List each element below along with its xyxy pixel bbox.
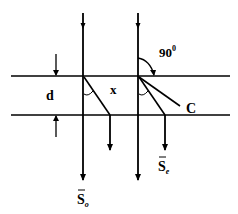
arrowhead-icon	[135, 174, 141, 181]
arrowhead-icon	[53, 115, 59, 121]
angle-arc-right	[139, 91, 148, 95]
arrowhead-icon	[81, 23, 86, 29]
displacement-label: x	[110, 82, 117, 97]
birefringence-diagram: d x 900 C Se So	[0, 0, 238, 214]
extraordinary-ray-inside-left	[84, 77, 110, 115]
angle-arc-left	[84, 91, 93, 95]
arrowhead-icon	[162, 144, 168, 151]
extraordinary-ray-inside-right	[139, 77, 165, 115]
arrowhead-icon	[53, 70, 59, 76]
extraordinary-ray-label: Se	[158, 159, 170, 176]
right-angle-arc	[138, 58, 154, 75]
arrowhead-icon	[136, 23, 141, 29]
optic-axis-label: C	[186, 101, 196, 116]
ordinary-ray-label: So	[77, 192, 89, 209]
arrowhead-icon	[107, 144, 113, 151]
optic-axis-line	[139, 77, 180, 106]
angle-label: 900	[159, 44, 176, 60]
thickness-label: d	[46, 88, 54, 103]
arrowhead-icon	[150, 70, 156, 76]
ordinary-ray-arrowhead	[80, 174, 86, 181]
